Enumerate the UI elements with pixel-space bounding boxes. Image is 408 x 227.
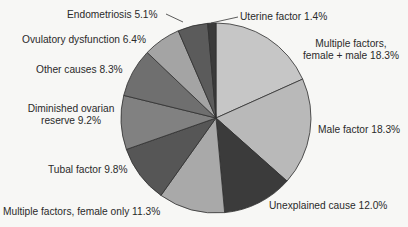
leader-line-endometriosis — [166, 14, 183, 22]
pie-slices — [121, 23, 311, 213]
label-ovulatory: Ovulatory dysfunction 6.4% — [22, 34, 146, 46]
label-endometriosis: Endometriosis 5.1% — [67, 9, 158, 21]
label-multiple-female-male: Multiple factors, female + male 18.3% — [295, 38, 407, 62]
label-diminished-ovarian-line1: Diminished ovarian — [18, 103, 124, 115]
label-tubal: Tubal factor 9.8% — [48, 164, 127, 176]
label-multiple-female-male-line2: female + male 18.3% — [295, 50, 407, 62]
label-uterine: Uterine factor 1.4% — [240, 11, 327, 23]
label-other-causes: Other causes 8.3% — [36, 64, 123, 76]
leader-line-uterine — [211, 17, 238, 23]
label-male-factor: Male factor 18.3% — [318, 124, 400, 136]
label-multiple-female-only: Multiple factors, female only 11.3% — [3, 206, 160, 218]
label-diminished-ovarian-line2: reserve 9.2% — [18, 115, 124, 127]
label-diminished-ovarian: Diminished ovarian reserve 9.2% — [18, 103, 124, 127]
label-unexplained: Unexplained cause 12.0% — [269, 200, 387, 212]
label-multiple-female-male-line1: Multiple factors, — [295, 38, 407, 50]
